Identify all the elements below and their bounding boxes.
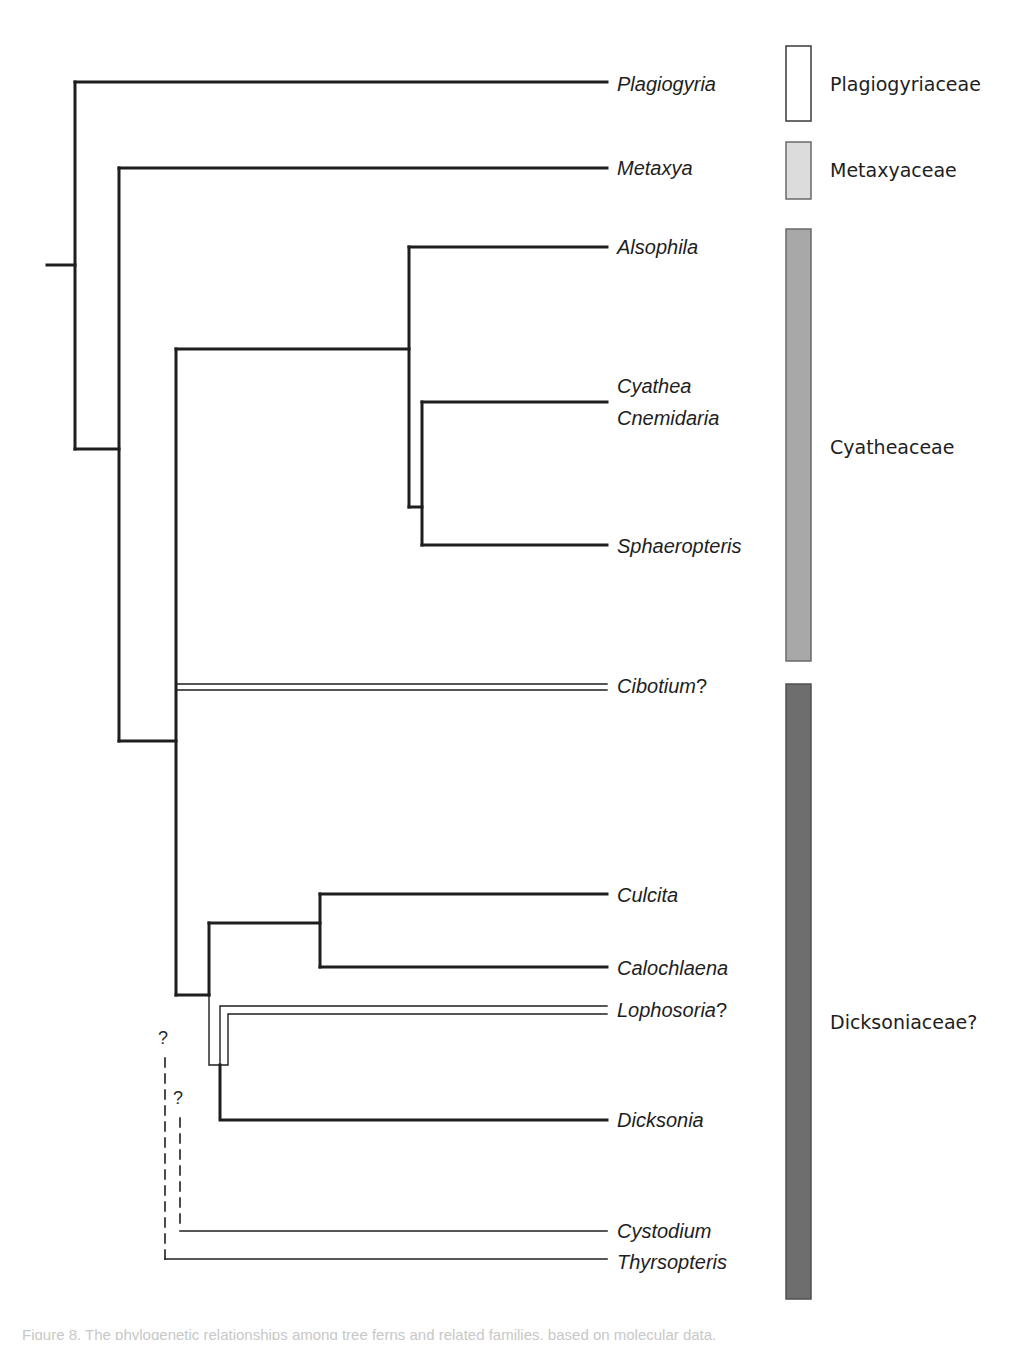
taxon-label-cnemidaria: Cnemidaria (617, 407, 719, 429)
taxon-label-thyrsopteris: Thyrsopteris (617, 1251, 727, 1273)
family-bar-2 (786, 229, 811, 661)
taxon-label-lophosoria: Lophosoria? (617, 999, 727, 1021)
taxon-label-cibotium: Cibotium? (617, 675, 707, 697)
family-bar-3 (786, 684, 811, 1299)
family-label-2: Cyatheaceae (830, 436, 954, 458)
branch-lophosoria-outer (220, 1006, 607, 1065)
family-label-3: Dicksoniaceae? (830, 1011, 977, 1033)
uncertain-placement-marks: ?? (158, 1028, 183, 1108)
family-bar-0 (786, 46, 811, 121)
branch-dicksonia (220, 1065, 607, 1120)
family-label-0: Plagiogyriaceae (830, 73, 981, 95)
taxon-label-plagiogyria: Plagiogyria (617, 73, 716, 95)
taxon-label-sphaeropteris: Sphaeropteris (617, 535, 742, 557)
question-mark-0: ? (158, 1028, 168, 1048)
taxon-label-alsophila: Alsophila (616, 236, 698, 258)
family-bar-1 (786, 142, 811, 199)
phylogenetic-tree: PlagiogyriaMetaxyaAlsophilaCyatheaCnemid… (0, 0, 1030, 1345)
taxon-labels: PlagiogyriaMetaxyaAlsophilaCyatheaCnemid… (616, 73, 742, 1273)
question-mark-1: ? (173, 1088, 183, 1108)
taxon-label-cystodium: Cystodium (617, 1220, 711, 1242)
family-label-1: Metaxyaceae (830, 159, 957, 181)
figure-caption: Figure 8. The phylogenetic relationships… (22, 1326, 1012, 1340)
tree-branches (47, 82, 607, 1259)
family-bars: PlagiogyriaceaeMetaxyaceaeCyatheaceaeDic… (786, 46, 981, 1299)
taxon-label-dicksonia: Dicksonia (617, 1109, 704, 1131)
taxon-label-cyathea: Cyathea (617, 375, 692, 397)
taxon-label-metaxya: Metaxya (617, 157, 693, 179)
taxon-label-culcita: Culcita (617, 884, 678, 906)
taxon-label-calochlaena: Calochlaena (617, 957, 728, 979)
